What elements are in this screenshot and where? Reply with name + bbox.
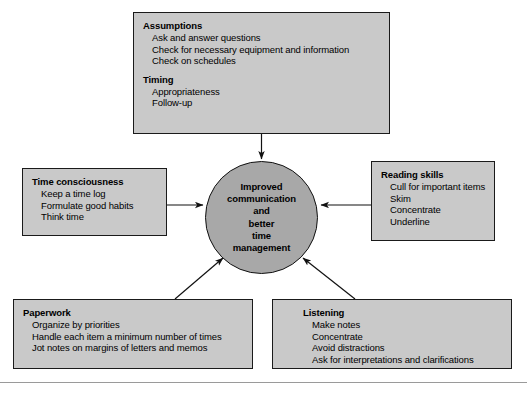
node-timing-item: Appropriateness <box>143 86 380 98</box>
center-node-label: Improved communication and better time m… <box>227 181 296 254</box>
node-reading-skills-item: Underline <box>381 216 485 228</box>
node-assumptions-item: Check on schedules <box>143 55 380 67</box>
node-listening[interactable]: Listening Make notes Concentrate Avoid d… <box>272 299 512 369</box>
node-time-consciousness-item: Formulate good habits <box>32 200 157 212</box>
center-node[interactable]: Improved communication and better time m… <box>205 161 318 274</box>
node-listening-title: Listening <box>282 307 502 319</box>
center-line: Improved <box>227 181 296 193</box>
node-reading-skills-item: Skim <box>381 193 485 205</box>
node-assumptions-item: Ask and answer questions <box>143 32 380 44</box>
node-timing-title: Timing <box>143 74 380 86</box>
center-line: better <box>227 218 296 230</box>
node-time-consciousness-item: Think time <box>32 211 157 223</box>
node-assumptions-title: Assumptions <box>143 20 380 32</box>
center-line: time <box>227 230 296 242</box>
center-line: communication <box>227 193 296 205</box>
node-assumptions-item: Check for necessary equipment and inform… <box>143 44 380 56</box>
node-reading-skills[interactable]: Reading skills Cull for important items … <box>371 161 495 241</box>
center-line: and <box>227 205 296 217</box>
node-listening-item: Ask for interpretations and clarificatio… <box>282 354 502 366</box>
connector-listening <box>303 258 355 299</box>
node-reading-skills-title: Reading skills <box>381 169 485 181</box>
node-assumptions[interactable]: Assumptions Ask and answer questions Che… <box>133 12 390 134</box>
node-paperwork-title: Paperwork <box>23 307 243 319</box>
diagram-canvas: Assumptions Ask and answer questions Che… <box>0 0 527 393</box>
connector-paperwork <box>175 258 223 299</box>
footer-divider <box>0 382 527 383</box>
node-time-consciousness-item: Keep a time log <box>32 188 157 200</box>
node-paperwork-item: Handle each item a minimum number of tim… <box>23 331 243 343</box>
node-time-consciousness[interactable]: Time consciousness Keep a time log Formu… <box>22 168 167 236</box>
node-listening-item: Avoid distractions <box>282 342 502 354</box>
spacer <box>143 67 380 74</box>
node-listening-item: Make notes <box>282 319 502 331</box>
node-listening-item: Concentrate <box>282 331 502 343</box>
node-reading-skills-item: Cull for important items <box>381 181 485 193</box>
node-timing-item: Follow-up <box>143 97 380 109</box>
node-paperwork[interactable]: Paperwork Organize by priorities Handle … <box>13 299 253 369</box>
node-paperwork-item: Jot notes on margins of letters and memo… <box>23 342 243 354</box>
node-paperwork-item: Organize by priorities <box>23 319 243 331</box>
node-reading-skills-item: Concentrate <box>381 204 485 216</box>
node-time-consciousness-title: Time consciousness <box>32 176 157 188</box>
center-line: management <box>227 242 296 254</box>
